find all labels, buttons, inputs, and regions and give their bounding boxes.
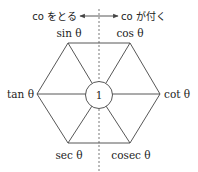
label-sin: sin θ: [56, 27, 81, 39]
center-label: 1: [96, 89, 103, 101]
label-cosec: cosec θ: [111, 149, 150, 161]
co-remove-label: co をとる: [32, 11, 77, 22]
label-tan: tan θ: [7, 88, 34, 100]
label-sec: sec θ: [55, 149, 82, 161]
co-add-label: co が付く: [121, 10, 166, 22]
label-cos: cos θ: [116, 27, 143, 39]
label-cot: cot θ: [164, 88, 190, 100]
hexagon-diagram: 1 co をとる co が付く sin θ cos θ tan θ cot θ …: [0, 0, 198, 172]
